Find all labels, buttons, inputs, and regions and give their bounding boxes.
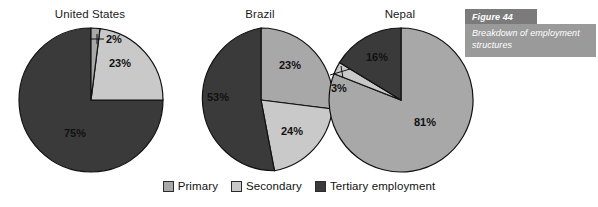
pie-title-united-states: United States xyxy=(18,8,162,20)
pie-title-nepal: Nepal xyxy=(328,8,472,20)
legend-item-secondary: Secondary xyxy=(231,180,302,192)
legend-item-primary: Primary xyxy=(163,180,218,192)
legend-label-primary: Primary xyxy=(178,180,218,192)
figure-number-label: Figure 44 xyxy=(472,12,513,22)
figure-canvas: United States 2% 23% 75% Brazil 23% 24% … xyxy=(0,0,598,207)
figure-caption-body: Breakdown of employment structures xyxy=(465,24,596,57)
legend-swatch-primary-icon xyxy=(163,181,174,192)
pie-label-brazil-secondary: 24% xyxy=(281,125,303,137)
figure-caption-box: Figure 44 Breakdown of employment struct… xyxy=(465,9,596,57)
legend-label-secondary: Secondary xyxy=(246,180,302,192)
pie-title-brazil: Brazil xyxy=(188,8,332,20)
legend-label-tertiary: Tertiary employment xyxy=(330,180,435,192)
pie-label-nepal-tertiary: 16% xyxy=(366,51,388,63)
legend-swatch-tertiary-icon xyxy=(315,181,326,192)
figure-caption-header: Figure 44 xyxy=(465,9,537,24)
legend-swatch-secondary-icon xyxy=(231,181,242,192)
pie-label-nepal-primary: 81% xyxy=(414,116,436,128)
pie-label-brazil-primary: 23% xyxy=(279,59,301,71)
legend-item-tertiary: Tertiary employment xyxy=(315,180,435,192)
pie-chart-united-states: 2% 23% 75% xyxy=(18,25,164,175)
pie-label-us-primary: 2% xyxy=(106,33,122,45)
chart-legend: Primary Secondary Tertiary employment xyxy=(0,180,598,192)
pie-chart-brazil: 23% 24% 53% xyxy=(188,25,334,175)
pie-label-brazil-tertiary: 53% xyxy=(207,91,229,103)
pie-label-nepal-secondary: 3% xyxy=(331,82,347,94)
pie-label-us-tertiary: 75% xyxy=(64,127,86,139)
figure-caption-text: Breakdown of employment structures xyxy=(472,28,589,51)
pie-label-us-secondary: 23% xyxy=(109,57,131,69)
pie-chart-nepal: 3% 16% 81% xyxy=(328,25,474,175)
